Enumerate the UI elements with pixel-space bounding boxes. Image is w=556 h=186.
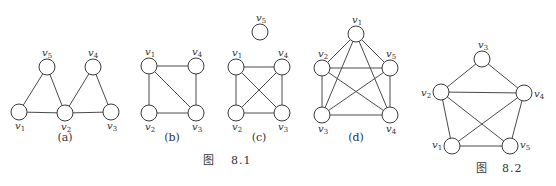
edge-v1-v3 xyxy=(149,66,196,113)
graph-8-1b: v1v4v2v3(b) xyxy=(141,46,204,144)
vertex-label: v5 xyxy=(42,47,52,60)
vertex-v3 xyxy=(474,51,490,67)
graph-8-1a: v1v2v3v4v5(a) xyxy=(11,47,119,144)
vertex-label: v2 xyxy=(145,121,155,134)
vertex-v2 xyxy=(141,105,157,121)
vertex-v4 xyxy=(382,107,398,123)
figure-8-2-prefix: 图 xyxy=(476,162,488,175)
graph-8-2: v3v2v4v1v5 xyxy=(421,39,545,154)
vertex-v2 xyxy=(57,105,73,121)
figure-8-2-caption: 图 8.2 xyxy=(476,162,523,175)
vertex-label: v3 xyxy=(192,121,202,134)
vertex-v2 xyxy=(228,105,244,121)
vertex-label: v3 xyxy=(318,123,328,136)
vertex-v3 xyxy=(103,104,119,120)
vertex-label: v4 xyxy=(278,47,289,60)
vertex-label: v4 xyxy=(88,47,99,60)
vertex-label: v1 xyxy=(352,14,362,27)
vertex-v4 xyxy=(516,85,532,101)
vertex-label: v3 xyxy=(107,120,117,133)
vertex-label: v4 xyxy=(192,46,203,59)
vertex-label: v3 xyxy=(478,39,488,52)
vertex-label: v2 xyxy=(318,48,328,61)
subfigure-caption: (b) xyxy=(164,131,180,144)
vertex-v1 xyxy=(141,58,157,74)
vertex-v1 xyxy=(444,138,460,154)
vertex-v2 xyxy=(433,84,449,100)
graph-figures-canvas: v1v2v3v4v5(a)v1v4v2v3(b)v5v1v4v2v3(c)v1v… xyxy=(0,0,556,186)
vertex-label: v4 xyxy=(534,88,545,101)
vertex-label: v5 xyxy=(386,48,396,61)
subfigure-caption: (c) xyxy=(252,131,267,144)
vertex-v5 xyxy=(502,138,518,154)
figure-8-1-prefix: 图 xyxy=(203,154,215,167)
graph-8-1c: v5v1v4v2v3(c) xyxy=(228,12,290,144)
vertex-label: v5 xyxy=(256,12,266,25)
vertex-v3 xyxy=(274,105,290,121)
vertex-label: v2 xyxy=(421,87,431,100)
vertex-label: v1 xyxy=(232,47,242,60)
graph-8-1d: v1v2v5v3v4(d) xyxy=(314,14,398,144)
vertex-label: v5 xyxy=(520,139,530,152)
vertex-v4 xyxy=(85,59,101,75)
figure-8-2-number: 8.2 xyxy=(502,162,523,175)
subfigure-caption: (d) xyxy=(348,131,364,144)
edge-v4-v1 xyxy=(452,93,524,146)
vertex-v4 xyxy=(188,58,204,74)
vertex-v5 xyxy=(39,59,55,75)
vertex-v5 xyxy=(382,60,398,76)
vertex-v3 xyxy=(188,105,204,121)
figure-8-1-caption: 图 8.1 xyxy=(203,154,252,167)
vertex-v1 xyxy=(348,26,364,42)
subfigure-caption: (a) xyxy=(57,131,72,144)
vertex-label: v1 xyxy=(15,120,25,133)
figure-group: v1v2v3v4v5(a)v1v4v2v3(b)v5v1v4v2v3(c)v1v… xyxy=(11,12,545,154)
vertex-label: v4 xyxy=(386,123,397,136)
vertex-label: v1 xyxy=(432,139,442,152)
vertex-v1 xyxy=(11,104,27,120)
edge-v2-v4 xyxy=(441,92,524,93)
vertex-label: v2 xyxy=(232,121,242,134)
vertex-label: v1 xyxy=(145,46,155,59)
vertex-label: v3 xyxy=(278,121,288,134)
vertex-v1 xyxy=(228,59,244,75)
figure-8-1-number: 8.1 xyxy=(231,154,252,167)
vertex-v4 xyxy=(274,59,290,75)
vertex-v3 xyxy=(314,107,330,123)
vertex-v2 xyxy=(314,60,330,76)
vertex-v5 xyxy=(252,24,268,40)
